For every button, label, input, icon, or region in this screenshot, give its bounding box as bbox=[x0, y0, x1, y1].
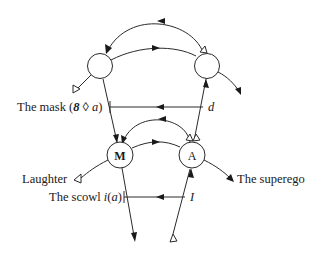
arrowhead-upper-inner-mid bbox=[152, 45, 160, 51]
edge-top-right-out bbox=[218, 72, 239, 91]
edge-A-to-top-right bbox=[194, 79, 206, 141]
node-top-right bbox=[195, 54, 220, 79]
scowl-close: ) bbox=[118, 190, 122, 204]
lower-outer-arc bbox=[123, 120, 190, 142]
arrowhead-scowl-mid bbox=[156, 194, 164, 200]
arrowhead-mask-mid bbox=[156, 104, 164, 110]
arrowhead-into-top-right bbox=[203, 79, 209, 88]
arrowhead-top-right-out bbox=[235, 87, 241, 95]
open-tail-lower-outer-b bbox=[193, 134, 200, 141]
arrowhead-upper-outer-mid bbox=[157, 18, 165, 24]
graph-diagram: M A The mask (8 ◊ a) d Laughter The scow… bbox=[0, 0, 322, 267]
label-laughter: Laughter bbox=[22, 172, 68, 186]
label-mask: The mask (8 ◊ a) bbox=[17, 100, 102, 114]
arrowhead-lower-outer-mid bbox=[158, 116, 166, 122]
open-arrowhead-laughter bbox=[74, 174, 81, 183]
label-I: I bbox=[189, 190, 195, 204]
edge-M-to-laughter bbox=[81, 160, 108, 178]
node-A-label: A bbox=[188, 149, 197, 163]
node-M-label: M bbox=[114, 149, 125, 163]
open-tail-bottom bbox=[170, 234, 177, 242]
mask-close: ) bbox=[98, 100, 102, 114]
edge-bottom-to-A bbox=[173, 169, 190, 234]
node-top-left bbox=[88, 54, 113, 79]
label-scowl: The scowl i(a) bbox=[49, 190, 122, 204]
label-superego: The superego bbox=[237, 172, 305, 186]
label-d: d bbox=[208, 100, 215, 114]
mask-text: The mask ( bbox=[17, 100, 73, 114]
mask-symbol: 8 ◊ bbox=[73, 100, 92, 114]
edge-A-to-superego bbox=[204, 160, 230, 178]
arrowhead-M-down bbox=[131, 232, 137, 242]
open-arrowhead-top-left-out bbox=[73, 85, 80, 93]
arrowhead-lower-inner-mid bbox=[152, 139, 160, 145]
scowl-text: The scowl bbox=[49, 190, 104, 204]
